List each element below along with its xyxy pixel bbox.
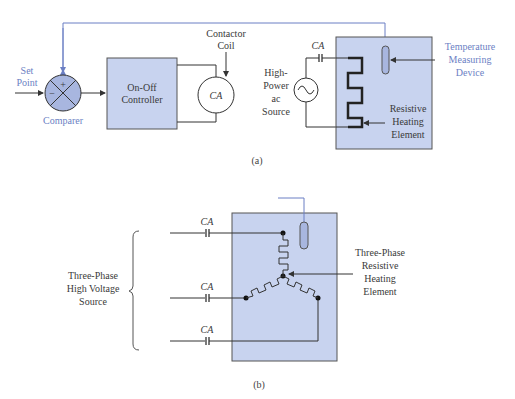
contactor-coil-label: ContactorCoil bbox=[206, 28, 246, 51]
svg-text:−: − bbox=[49, 88, 55, 99]
furnace-box-b bbox=[232, 213, 337, 361]
contact-label-b3: CA bbox=[201, 324, 215, 335]
diagram-a: SetPoint + − Comparer On-OffController C… bbox=[15, 23, 496, 167]
contact-label-a: CA bbox=[312, 40, 326, 51]
temperature-control-diagram: SetPoint + − Comparer On-OffController C… bbox=[0, 0, 515, 399]
three-phase-source-label: Three-PhaseHigh VoltageSource bbox=[67, 270, 120, 307]
temperature-sensor-icon-b bbox=[300, 222, 308, 249]
svg-text:+: + bbox=[60, 79, 66, 90]
ac-source-label: High-PoweracSource bbox=[262, 67, 290, 117]
brace-icon bbox=[129, 231, 139, 350]
temperature-sensor-icon bbox=[382, 46, 389, 74]
contact-label-b2: CA bbox=[201, 281, 215, 292]
heating-element-label: ResistiveHeatingElement bbox=[390, 103, 427, 140]
setpoint-label: SetPoint bbox=[16, 65, 37, 88]
caption-b: (b) bbox=[253, 379, 265, 391]
comparer-label: Comparer bbox=[43, 115, 84, 126]
comparer-icon: + − bbox=[45, 75, 81, 111]
caption-a: (a) bbox=[251, 155, 262, 167]
coil-label: CA bbox=[210, 90, 224, 101]
diagram-b: Three-PhaseHigh VoltageSource CA CA CA bbox=[67, 198, 406, 391]
temperature-device-label: TemperatureMeasuringDevice bbox=[445, 41, 496, 78]
three-phase-element-label: Three-PhaseResistiveHeatingElement bbox=[355, 247, 406, 297]
contact-label-b1: CA bbox=[201, 216, 215, 227]
